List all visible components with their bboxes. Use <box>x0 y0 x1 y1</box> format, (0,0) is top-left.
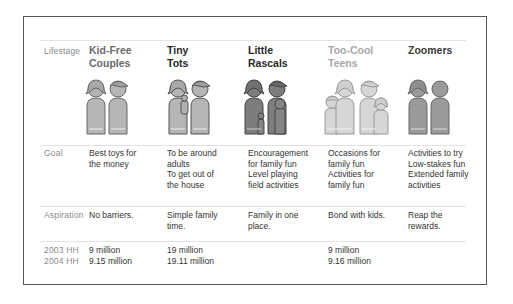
goal-line: for family fun <box>248 159 308 170</box>
divider-top <box>40 40 466 41</box>
goal-line: To be around <box>167 148 217 159</box>
hh-too-cool-teens: 9 million 9.16 million <box>328 245 371 266</box>
row-label-lifestage: Lifestage <box>44 46 80 56</box>
hh-2004-value: 9.15 million <box>89 256 132 267</box>
segment-title-tiny-tots: Tiny Tots <box>167 44 188 70</box>
goal-line: Occasions for <box>328 148 380 159</box>
hh-kid-free-couples: 9 million 9.15 million <box>89 245 132 266</box>
goal-too-cool-teens: Occasions for family fun Activities for … <box>328 148 380 190</box>
goal-line: Level playing <box>248 169 308 180</box>
goal-line: field activities <box>248 180 308 191</box>
aspiration-little-rascals: Family in one place. <box>248 210 299 231</box>
segment-title-little-rascals: Little Rascals <box>248 44 288 70</box>
aspiration-line: rewards. <box>408 221 443 232</box>
row-label-aspiration: Aspiration <box>44 210 84 220</box>
aspiration-line: time. <box>167 221 218 232</box>
aspiration-line: Simple family <box>167 210 218 221</box>
goal-line: family fun <box>328 180 380 191</box>
goal-line: the house <box>167 180 217 191</box>
couple-icon <box>82 76 134 136</box>
aspiration-zoomers: Reap the rewards. <box>408 210 443 231</box>
aspiration-line: No barriers. <box>89 210 133 221</box>
hh-2004-value: 19.11 million <box>167 256 214 267</box>
row-label-goal: Goal <box>44 148 63 158</box>
aspiration-line: place. <box>248 221 299 232</box>
aspiration-too-cool-teens: Bond with kids. <box>328 210 385 221</box>
title-line: Couples <box>89 57 132 70</box>
goal-kid-free-couples: Best toys for the money <box>89 148 136 169</box>
family-with-toddler-icon <box>164 76 216 136</box>
goal-line: Low-stakes fun <box>408 159 468 170</box>
goal-line: Best toys for <box>89 148 136 159</box>
hh-tiny-tots: 19 million 19.11 million <box>167 245 214 266</box>
goal-line: the money <box>89 159 136 170</box>
goal-line: Activities to try <box>408 148 468 159</box>
goal-line: Encouragement <box>248 148 308 159</box>
aspiration-tiny-tots: Simple family time. <box>167 210 218 231</box>
goal-line: family fun <box>328 159 380 170</box>
title-line: Teens <box>328 57 373 70</box>
segment-title-too-cool-teens: Too-Cool Teens <box>328 44 373 70</box>
title-line: Too-Cool <box>328 44 373 57</box>
segment-title-zoomers: Zoomers <box>408 44 452 57</box>
senior-couple-icon <box>404 76 456 136</box>
hh-2004-value: 9.16 million <box>328 256 371 267</box>
goal-zoomers: Activities to try Low-stakes fun Extende… <box>408 148 468 190</box>
goal-line: activities <box>408 180 468 191</box>
title-line: Rascals <box>248 57 288 70</box>
aspiration-line: Family in one <box>248 210 299 221</box>
hh-2003-value: 19 million <box>167 245 214 256</box>
divider-hh <box>40 241 466 242</box>
goal-line: adults <box>167 159 217 170</box>
title-line: Little <box>248 44 288 57</box>
divider-goal <box>40 145 466 146</box>
title-line: Tiny <box>167 44 188 57</box>
aspiration-kid-free-couples: No barriers. <box>89 210 133 221</box>
goal-little-rascals: Encouragement for family fun Level playi… <box>248 148 308 190</box>
goal-tiny-tots: To be around adults To get out of the ho… <box>167 148 217 190</box>
divider-aspiration <box>40 206 466 207</box>
family-with-teens-icon <box>322 76 394 136</box>
hh-2003-value: 9 million <box>328 245 371 256</box>
hh-2003-value: 9 million <box>89 245 132 256</box>
title-line: Kid-Free <box>89 44 132 57</box>
goal-line: To get out of <box>167 169 217 180</box>
aspiration-line: Reap the <box>408 210 443 221</box>
row-label-2004-hh: 2004 HH <box>44 256 79 266</box>
aspiration-line: Bond with kids. <box>328 210 385 221</box>
title-line: Zoomers <box>408 44 452 57</box>
row-label-2003-hh: 2003 HH <box>44 245 79 255</box>
goal-line: Activities for <box>328 169 380 180</box>
segment-title-kid-free-couples: Kid-Free Couples <box>89 44 132 70</box>
title-line: Tots <box>167 57 188 70</box>
family-with-kids-icon <box>242 76 294 136</box>
goal-line: Extended family <box>408 169 468 180</box>
